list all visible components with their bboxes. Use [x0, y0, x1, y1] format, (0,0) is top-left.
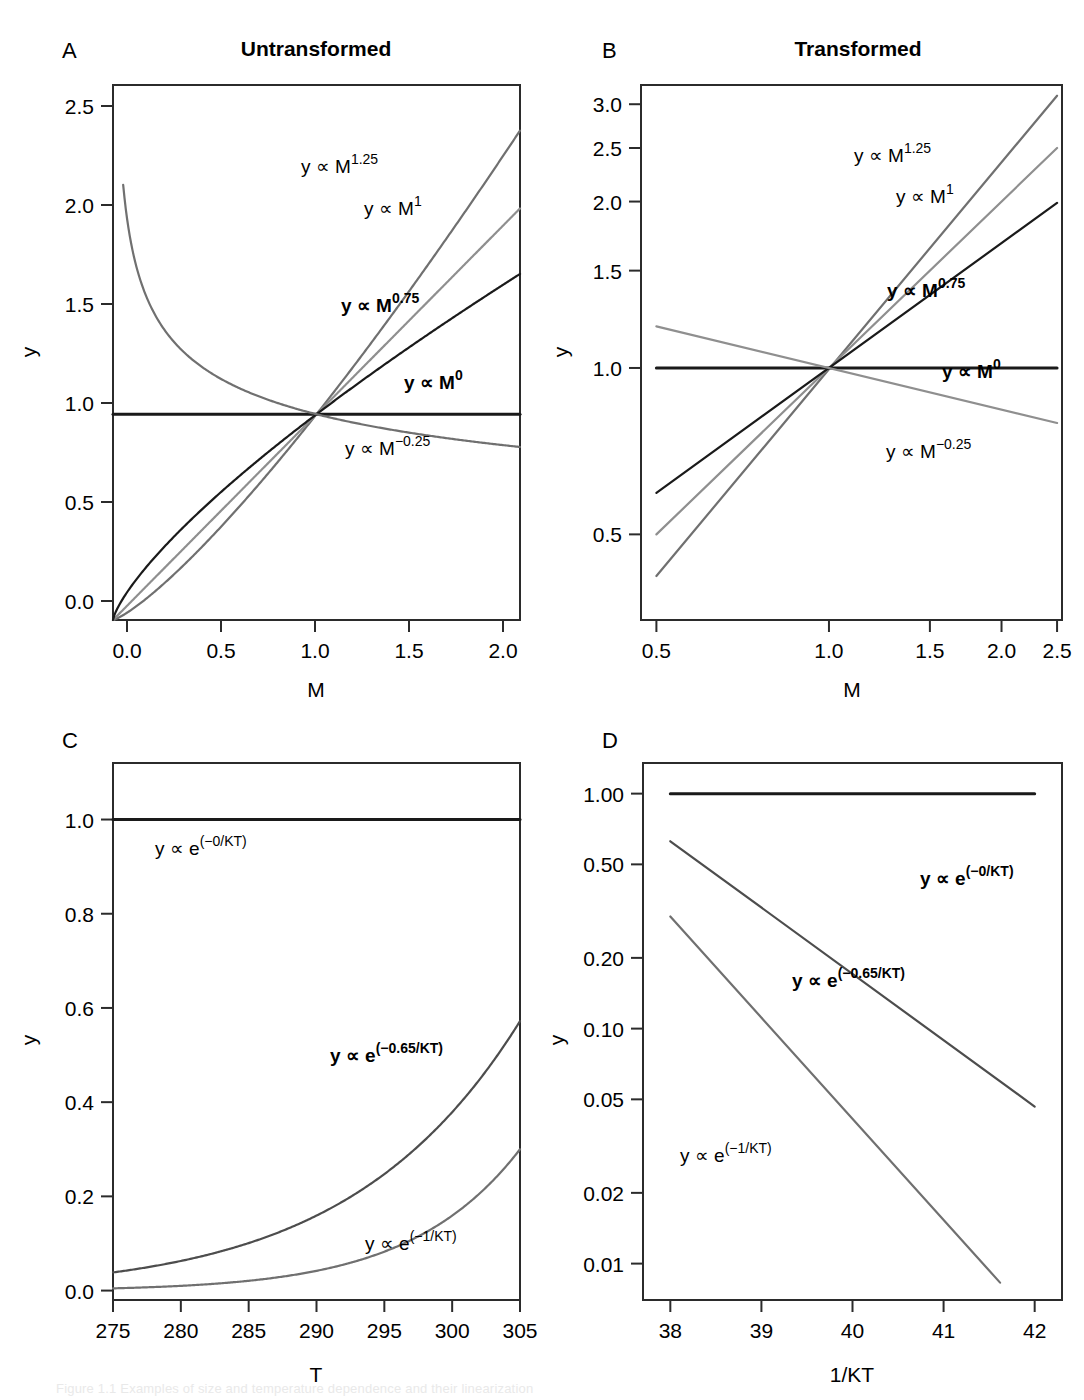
svg-text:0.0: 0.0: [65, 1280, 94, 1303]
panel-c-annotations: y ∝ e(−0/KT) y ∝ e(−0.65/KT) y ∝ e(−1/KT…: [155, 833, 457, 1254]
panel-d-svg: D 0.010.020.050.100.200.501.00 383940414…: [542, 700, 1084, 1400]
svg-text:y ∝ M1.25: y ∝ M1.25: [854, 140, 931, 166]
panel-c-lbl1-sup: (−0.65/KT): [376, 1040, 443, 1056]
panel-b-lbl4-base: y ∝ M: [886, 441, 936, 462]
panel-d-ylabel: y: [545, 1034, 568, 1045]
panel-a-ytick-0: 0.0: [65, 590, 94, 613]
panel-d-lbl1-base: y ∝ e: [792, 970, 838, 991]
panel-c-x-tick-labels: 275280285290295300305: [95, 1319, 537, 1342]
panel-b-lbl3-sup: 0: [993, 356, 1001, 372]
svg-text:290: 290: [299, 1319, 334, 1342]
svg-text:1.5: 1.5: [593, 260, 622, 283]
svg-text:285: 285: [231, 1319, 266, 1342]
panel-d-lbl1-sup: (−0.65/KT): [838, 965, 905, 981]
svg-text:3.0: 3.0: [593, 93, 622, 116]
panel-b-lbl0-sup: 1.25: [904, 140, 931, 156]
panel-d-x-tick-labels: 3839404142: [659, 1319, 1047, 1342]
panel-a-lbl4-sup: −0.25: [395, 433, 431, 449]
svg-text:0.5: 0.5: [593, 523, 622, 546]
svg-text:0.02: 0.02: [583, 1182, 624, 1205]
panel-a-xlabel: M: [307, 678, 325, 700]
panel-c-y-ticks: [101, 820, 113, 1291]
svg-text:y ∝ e(−0.65/KT): y ∝ e(−0.65/KT): [330, 1040, 443, 1066]
svg-text:42: 42: [1023, 1319, 1046, 1342]
panel-d-lbl2-sup: (−1/KT): [725, 1140, 772, 1156]
panel-a-xtick-1: 0.5: [206, 639, 235, 662]
panel-a-ytick-2: 1.0: [65, 392, 94, 415]
svg-text:1.0: 1.0: [65, 809, 94, 832]
panel-a-lbl2-base: y ∝ M: [341, 295, 392, 316]
svg-text:2.0: 2.0: [593, 191, 622, 214]
panel-c-lbl2-base: y ∝ e: [365, 1233, 410, 1254]
svg-text:300: 300: [435, 1319, 470, 1342]
svg-text:305: 305: [502, 1319, 537, 1342]
panel-a-lbl2-sup: 0.75: [392, 290, 419, 306]
svg-text:0.20: 0.20: [583, 947, 624, 970]
panel-a-lbl1-base: y ∝ M: [364, 198, 414, 219]
panel-b-x-tick-labels: 0.51.01.52.02.5: [642, 639, 1072, 662]
svg-text:0.01: 0.01: [583, 1253, 624, 1276]
svg-text:1.5: 1.5: [915, 639, 944, 662]
svg-text:y ∝ M−0.25: y ∝ M−0.25: [345, 433, 431, 459]
panel-b-lbl1-sup: 1: [946, 181, 954, 197]
panel-c-lbl0-sup: (−0/KT): [200, 833, 247, 849]
panel-a-ytick-3: 1.5: [65, 293, 94, 316]
panel-c-y-tick-labels: 0.00.20.40.60.81.0: [65, 809, 95, 1303]
panel-d-annotations: y ∝ e(−0/KT) y ∝ e(−0.65/KT) y ∝ e(−1/KT…: [680, 863, 1014, 1166]
panel-a-ytick-1: 0.5: [65, 491, 94, 514]
panel-c-x-ticks: [113, 1300, 520, 1312]
svg-text:0.2: 0.2: [65, 1185, 94, 1208]
panel-c-lbl2-sup: (−1/KT): [410, 1228, 457, 1244]
panel-b-curves: [656, 96, 1057, 576]
panel-a-y-ticks: [101, 106, 113, 601]
panel-d-letter: D: [602, 728, 618, 753]
panel-b-lbl1-base: y ∝ M: [896, 186, 946, 207]
panel-b-x-ticks: [656, 620, 1057, 632]
svg-text:0.10: 0.10: [583, 1018, 624, 1041]
panel-d-plot-box: [643, 763, 1062, 1300]
panel-d: D 0.010.020.050.100.200.501.00 383940414…: [542, 700, 1084, 1400]
panel-d-y-tick-labels: 0.010.020.050.100.200.501.00: [583, 783, 624, 1276]
panel-c-ylabel: y: [17, 1034, 40, 1045]
svg-text:2.5: 2.5: [593, 137, 622, 160]
svg-text:0.6: 0.6: [65, 997, 94, 1020]
figure-root: A Untransformed 0.0 0.5 1.0 1.5 2.0 2.5: [0, 0, 1084, 1400]
panel-c-lbl1-base: y ∝ e: [330, 1045, 376, 1066]
svg-text:275: 275: [95, 1319, 130, 1342]
panel-a-title: Untransformed: [241, 37, 392, 60]
svg-text:39: 39: [750, 1319, 773, 1342]
svg-text:40: 40: [841, 1319, 864, 1342]
panel-c-svg: C 0.00.20.40.60.81.0 2752802852902953003…: [0, 700, 542, 1400]
svg-text:y ∝ e(−0/KT): y ∝ e(−0/KT): [920, 863, 1014, 889]
svg-text:0.50: 0.50: [583, 853, 624, 876]
svg-text:0.05: 0.05: [583, 1088, 624, 1111]
panel-b-y-tick-labels: 0.51.01.52.02.53.0: [593, 93, 622, 546]
panel-b-y-ticks: [629, 104, 641, 534]
panel-c: C 0.00.20.40.60.81.0 2752802852902953003…: [0, 700, 542, 1400]
panel-d-x-ticks: [670, 1300, 1034, 1312]
panel-b-lbl2-sup: 0.75: [938, 275, 965, 291]
figure-caption: Figure 1.1 Examples of size and temperat…: [0, 1381, 1084, 1396]
panel-b-lbl4-sup: −0.25: [936, 436, 972, 452]
svg-text:38: 38: [659, 1319, 682, 1342]
svg-text:y ∝ M1: y ∝ M1: [896, 181, 954, 207]
panel-a: A Untransformed 0.0 0.5 1.0 1.5 2.0 2.5: [0, 0, 542, 700]
svg-text:y ∝ e(−1/KT): y ∝ e(−1/KT): [680, 1140, 772, 1166]
svg-text:41: 41: [932, 1319, 955, 1342]
svg-text:y ∝ M1: y ∝ M1: [364, 193, 422, 219]
panel-b-lbl2-base: y ∝ M: [887, 280, 938, 301]
panel-a-lbl3-sup: 0: [455, 367, 463, 383]
panel-d-lbl0-sup: (−0/KT): [966, 863, 1014, 879]
svg-text:2.0: 2.0: [987, 639, 1016, 662]
svg-text:0.5: 0.5: [642, 639, 671, 662]
panel-d-lbl2-base: y ∝ e: [680, 1145, 725, 1166]
svg-text:y ∝ e(−0/KT): y ∝ e(−0/KT): [155, 833, 247, 859]
panel-b-title: Transformed: [794, 37, 921, 60]
svg-text:y ∝ M1.25: y ∝ M1.25: [301, 151, 378, 177]
svg-text:y ∝ M0: y ∝ M0: [942, 356, 1001, 382]
panel-d-lbl0-base: y ∝ e: [920, 868, 966, 889]
panel-a-x-ticks: [127, 620, 503, 632]
svg-text:y ∝ M0.75: y ∝ M0.75: [887, 275, 965, 301]
panel-a-letter: A: [62, 38, 77, 63]
panel-a-lbl0-base: y ∝ M: [301, 156, 351, 177]
